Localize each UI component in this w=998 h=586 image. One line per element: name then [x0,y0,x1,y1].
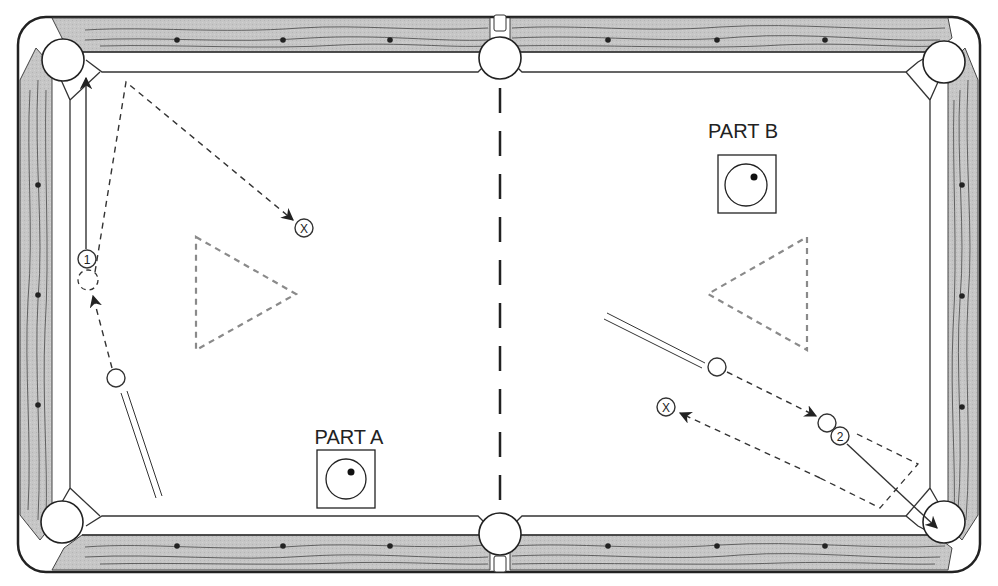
part-b-label: PART B [708,120,778,142]
target-x-icon: X [662,401,670,415]
pocket-bottom-middle [479,513,521,555]
ball-number-1: 1 [84,253,91,267]
cue-ball-a [107,369,125,387]
cue-tip-dot-b [751,174,758,181]
rail-bottom-left [52,535,490,570]
cue-tip-dot-a [348,469,355,476]
pocket-bottom-left [41,501,83,543]
pocket-top-right [923,41,965,83]
rail-bottom-right [510,535,952,570]
pocket-bottom-right [923,501,965,543]
pocket-top-middle [479,37,521,79]
target-x-icon: X [300,222,308,236]
ball-number-2: 2 [837,430,844,444]
pocket-top-left [42,39,84,81]
cue-ball-b [708,358,726,376]
part-a-label: PART A [315,426,385,448]
pool-table-diagram: 1 X PART A PART B 2 [0,0,998,586]
